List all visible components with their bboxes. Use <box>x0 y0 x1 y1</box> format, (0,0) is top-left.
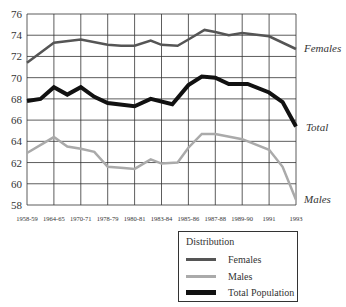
x-axis-ticks: 1958-591964-651970-711978-791980-811983-… <box>16 215 302 222</box>
y-tick-label: 62 <box>11 157 22 169</box>
x-tick-label: 1991 <box>263 215 276 222</box>
total-annotation: Total <box>306 121 328 133</box>
y-tick-label: 58 <box>11 199 23 211</box>
females-annotation: Females <box>303 42 341 54</box>
x-tick-label: 1970-71 <box>70 215 92 222</box>
y-tick-label: 68 <box>11 93 23 105</box>
chart-legend: Distribution Females Males Total Populat… <box>178 231 298 302</box>
y-tick-label: 64 <box>11 135 23 147</box>
total-swatch <box>186 290 216 295</box>
y-tick-label: 70 <box>11 72 23 84</box>
x-tick-label: 1989-90 <box>231 215 253 222</box>
legend-label: Total Population <box>228 287 294 298</box>
females-swatch <box>186 258 216 261</box>
legend-label: Males <box>228 271 252 282</box>
x-tick-label: 1993 <box>290 215 303 222</box>
y-tick-label: 74 <box>11 29 23 41</box>
y-tick-label: 66 <box>11 114 23 126</box>
legend-item-females: Females <box>186 252 261 266</box>
y-tick-label: 72 <box>11 50 22 62</box>
x-tick-label: 1980-81 <box>124 215 146 222</box>
legend-item-total: Total Population <box>186 285 294 299</box>
x-tick-label: 1987-88 <box>204 215 226 222</box>
legend-label: Females <box>228 254 261 265</box>
chart-grid <box>27 14 296 205</box>
y-tick-label: 60 <box>11 178 23 190</box>
x-tick-label: 1985-86 <box>178 215 200 222</box>
x-tick-label: 1983-84 <box>151 215 173 222</box>
legend-item-males: Males <box>186 269 252 283</box>
y-axis-ticks: 58606264666870727476 <box>11 8 23 211</box>
x-tick-label: 1958-59 <box>16 215 38 222</box>
legend-title: Distribution <box>186 236 234 247</box>
males-annotation: Males <box>303 193 331 205</box>
males-swatch <box>186 275 216 278</box>
x-tick-label: 1964-65 <box>43 215 65 222</box>
y-tick-label: 76 <box>11 8 23 20</box>
x-tick-label: 1978-79 <box>97 215 119 222</box>
